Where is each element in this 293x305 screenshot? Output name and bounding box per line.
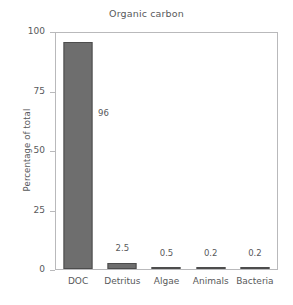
bar-group: 96 xyxy=(56,33,100,269)
x-axis-label-doc: DOC xyxy=(68,276,88,286)
bar xyxy=(240,267,269,269)
bar-group: 0.5 xyxy=(144,33,188,269)
y-tick-0: 0 xyxy=(0,270,55,271)
bar-value-label: 0.5 xyxy=(160,248,174,258)
bar xyxy=(152,267,181,269)
bar xyxy=(196,267,225,269)
y-tick-label: 75 xyxy=(34,86,45,96)
x-axis-label-detritus: Detritus xyxy=(104,276,140,286)
bar xyxy=(108,263,137,269)
x-axis-label-animals: Animals xyxy=(193,276,229,286)
y-tick-100: 100 xyxy=(0,32,55,33)
bar-value-label: 2.5 xyxy=(116,243,130,253)
chart-figure: Organic carbon Percentage of total 02550… xyxy=(0,0,293,305)
bar-group: 0.2 xyxy=(189,33,233,269)
y-tick-label: 100 xyxy=(28,26,45,36)
bar-value-label: 0.2 xyxy=(204,248,218,258)
x-axis-labels: DOCDetritusAlgaeAnimalsBacteria xyxy=(56,276,277,292)
bar xyxy=(64,42,93,269)
y-tick-mark xyxy=(50,270,55,271)
x-axis-label-algae: Algae xyxy=(154,276,179,286)
y-tick-label: 50 xyxy=(34,145,45,155)
x-axis-label-bacteria: Bacteria xyxy=(236,276,273,286)
y-tick-label: 25 xyxy=(34,205,45,215)
y-tick-75: 75 xyxy=(0,92,55,93)
y-tick-25: 25 xyxy=(0,211,55,212)
bar-group: 2.5 xyxy=(100,33,144,269)
y-tick-50: 50 xyxy=(0,151,55,152)
chart-title: Organic carbon xyxy=(0,8,293,19)
bars-layer: 962.50.50.20.2 xyxy=(56,33,277,269)
bar-group: 0.2 xyxy=(233,33,277,269)
y-tick-label: 0 xyxy=(39,264,45,274)
bar-value-label: 0.2 xyxy=(248,248,262,258)
